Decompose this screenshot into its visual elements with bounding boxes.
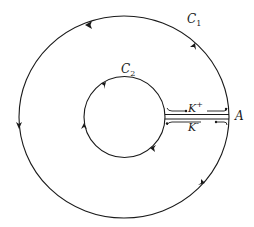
label-k-minus: K- — [188, 120, 199, 133]
label-c1: C1 — [187, 13, 201, 28]
arrow-icon — [190, 43, 196, 50]
outer-contour-c1 — [19, 16, 229, 218]
label-point-a: A — [235, 110, 244, 122]
label-c2: C2 — [121, 63, 135, 78]
contour-diagram — [0, 0, 254, 227]
arrow-icon — [198, 179, 205, 185]
label-k-plus: K+ — [188, 101, 203, 114]
outer-contour-arrows — [16, 21, 205, 185]
arrow-icon — [81, 123, 87, 129]
inner-contour-c2 — [84, 77, 165, 158]
